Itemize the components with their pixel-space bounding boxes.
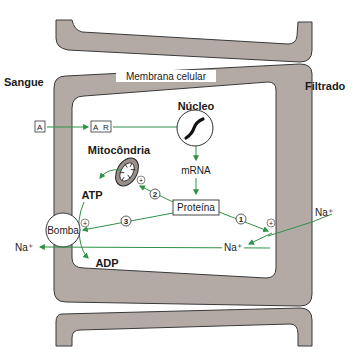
plus-mitochondria: +: [139, 177, 143, 184]
receptor-r-label: R: [103, 123, 109, 132]
filtrate-side-label: Filtrado: [305, 80, 346, 92]
atp-label: ATP: [81, 189, 102, 201]
mitochondria-label: Mitocôndria: [88, 144, 151, 156]
sodium-right-label: Na⁺: [315, 207, 333, 218]
protein-label: Proteína: [177, 202, 215, 213]
receptor-a-label: A: [93, 123, 99, 132]
sodium-left-label: Na⁺: [15, 242, 33, 253]
sodium-inside-label: Na⁺: [224, 242, 242, 253]
hormone-label: A: [37, 123, 43, 132]
step-3-number: 3: [124, 217, 129, 226]
adp-label: ADP: [95, 257, 118, 269]
membrane-label: Membrana celular: [126, 71, 207, 82]
sodium-influx-arrow: [249, 233, 272, 244]
aldosterone-cell-diagram: Membrana celular Sangue Filtrado A A R N…: [0, 0, 352, 356]
bottom-cell-membrane: [56, 308, 312, 346]
plus-channel: +: [269, 220, 273, 227]
step-2-number: 2: [153, 190, 158, 199]
pump-label: Bomba: [47, 225, 79, 236]
step-1-number: 1: [239, 215, 244, 224]
plus-pump: +: [83, 220, 87, 227]
mrna-label: mRNA: [181, 165, 211, 176]
top-cell-membrane: [56, 20, 312, 62]
blood-side-label: Sangue: [4, 76, 44, 88]
mitochondria-icon: [111, 154, 143, 190]
